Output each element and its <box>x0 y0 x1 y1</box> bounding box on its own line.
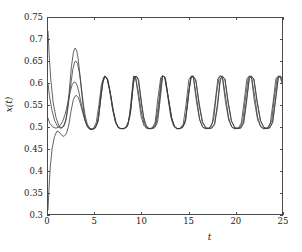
y-tick-label: 0.45 <box>24 145 43 154</box>
x-axis-tick-labels: 0510152025 <box>0 217 302 231</box>
y-tick-mark-right <box>280 171 283 172</box>
y-tick-label: 0.7 <box>29 35 43 44</box>
y-tick-label: 0.75 <box>24 13 43 22</box>
y-tick-mark-right <box>280 193 283 194</box>
y-tick-mark <box>47 149 50 150</box>
y-axis-label: x(t) <box>5 75 14 135</box>
y-tick-label: 0.5 <box>29 123 43 132</box>
x-tick-mark <box>189 212 190 215</box>
x-tick-mark-top <box>94 17 95 20</box>
x-tick-mark <box>47 212 48 215</box>
x-tick-label: 15 <box>177 217 201 226</box>
y-tick-mark-right <box>280 149 283 150</box>
x-tick-mark-top <box>141 17 142 20</box>
x-axis-label-text: t <box>208 233 212 242</box>
x-tick-label: 0 <box>35 217 59 226</box>
x-tick-mark <box>236 212 237 215</box>
y-tick-mark-right <box>280 105 283 106</box>
y-tick-mark <box>47 61 50 62</box>
x-tick-label: 10 <box>129 217 153 226</box>
x-tick-label: 20 <box>224 217 248 226</box>
x-tick-mark-top <box>283 17 284 20</box>
x-tick-mark <box>283 212 284 215</box>
x-tick-mark-top <box>189 17 190 20</box>
y-tick-mark <box>47 39 50 40</box>
x-axis-label: t <box>0 233 302 242</box>
y-tick-mark-right <box>280 61 283 62</box>
y-tick-mark <box>47 127 50 128</box>
y-tick-mark-right <box>280 83 283 84</box>
y-tick-mark <box>47 193 50 194</box>
y-tick-mark-right <box>280 127 283 128</box>
y-tick-mark <box>47 105 50 106</box>
y-tick-mark <box>47 171 50 172</box>
x-tick-mark-top <box>236 17 237 20</box>
plot-area <box>47 17 283 215</box>
x-tick-label: 25 <box>271 217 295 226</box>
y-tick-mark-right <box>280 39 283 40</box>
x-tick-mark <box>94 212 95 215</box>
figure-container: 0.30.350.40.450.50.550.60.650.70.75 0510… <box>0 0 302 252</box>
y-tick-label: 0.4 <box>29 167 43 176</box>
x-tick-mark <box>141 212 142 215</box>
y-tick-label: 0.55 <box>24 101 43 110</box>
y-tick-label: 0.6 <box>29 79 43 88</box>
y-tick-label: 0.35 <box>24 189 43 198</box>
x-tick-mark-top <box>47 17 48 20</box>
x-tick-label: 5 <box>82 217 106 226</box>
curves-svg <box>48 18 282 214</box>
y-tick-mark <box>47 83 50 84</box>
y-tick-label: 0.65 <box>24 57 43 66</box>
